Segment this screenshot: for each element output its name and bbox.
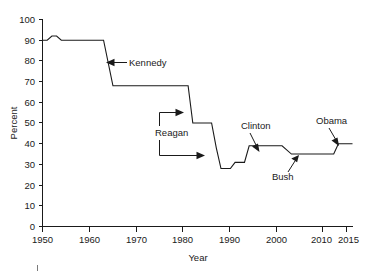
annotation-reagan-arrowhead-lower xyxy=(197,152,206,159)
annotation-obama-label: Obama xyxy=(316,115,348,126)
annotation-obama-arrowhead xyxy=(332,138,340,146)
x-axis-ticks xyxy=(43,227,347,232)
y-tick-label-20: 20 xyxy=(24,180,35,191)
x-tick-label-1950: 1950 xyxy=(32,234,53,245)
x-tick-label-2010: 2010 xyxy=(311,234,332,245)
x-axis-title: Year xyxy=(188,252,207,263)
annotation-kennedy-label: Kennedy xyxy=(129,57,167,68)
x-tick-label-1980: 1980 xyxy=(172,234,193,245)
y-axis-tick-labels: 100 90 80 70 60 50 40 30 20 10 0 xyxy=(19,14,35,232)
tax-rate-line-chart: 100 90 80 70 60 50 40 30 20 10 0 1950 19 xyxy=(0,0,367,276)
y-tick-label-80: 80 xyxy=(24,55,35,66)
y-tick-label-30: 30 xyxy=(24,159,35,170)
y-axis-title: Percent xyxy=(8,106,19,139)
annotation-bush: Bush xyxy=(272,155,299,182)
y-tick-label-10: 10 xyxy=(24,200,35,211)
annotation-bush-label: Bush xyxy=(272,171,294,182)
x-tick-label-1990: 1990 xyxy=(219,234,240,245)
annotation-reagan-leader-upper xyxy=(160,113,178,127)
y-tick-label-50: 50 xyxy=(24,117,35,128)
annotation-reagan-leader-lower xyxy=(160,140,199,156)
annotation-clinton-label: Clinton xyxy=(241,120,271,131)
x-tick-label-1970: 1970 xyxy=(126,234,147,245)
annotation-clinton: Clinton xyxy=(241,120,271,152)
annotation-clinton-leader xyxy=(250,133,257,146)
y-tick-label-40: 40 xyxy=(24,138,35,149)
y-tick-label-0: 0 xyxy=(30,221,35,232)
y-tick-label-90: 90 xyxy=(24,35,35,46)
x-tick-label-2000: 2000 xyxy=(266,234,287,245)
y-tick-label-70: 70 xyxy=(24,76,35,87)
annotation-reagan-arrowhead-upper xyxy=(176,109,185,116)
chart-page: 100 90 80 70 60 50 40 30 20 10 0 1950 19 xyxy=(0,0,367,276)
annotation-obama-leader xyxy=(329,128,336,140)
x-tick-label-2015: 2015 xyxy=(338,234,359,245)
annotation-obama: Obama xyxy=(316,115,348,146)
annotation-clinton-arrowhead xyxy=(252,144,260,152)
annotation-reagan-label: Reagan xyxy=(155,127,188,138)
x-axis-tick-labels: 1950 1960 1970 1980 1990 2000 2010 2015 xyxy=(32,234,359,245)
tax-rate-series-line xyxy=(43,36,353,168)
y-tick-label-100: 100 xyxy=(19,14,35,25)
annotation-reagan: Reagan xyxy=(155,109,205,159)
y-tick-label-60: 60 xyxy=(24,97,35,108)
y-axis-ticks xyxy=(39,20,43,227)
x-tick-label-1960: 1960 xyxy=(79,234,100,245)
annotation-kennedy: Kennedy xyxy=(106,57,167,68)
